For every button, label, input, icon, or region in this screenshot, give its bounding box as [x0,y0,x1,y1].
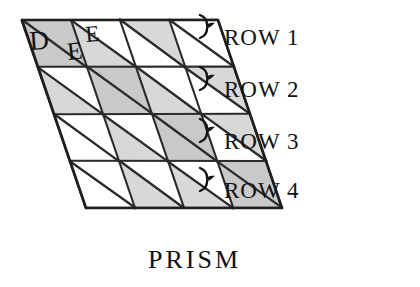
row-label-1: ROW 1 [224,25,300,50]
prism-diagram: DEE ROW 1ROW 2ROW 3ROW 4 PRISM [0,0,420,287]
figure-caption: PRISM [148,245,241,274]
figure-canvas: DEE ROW 1ROW 2ROW 3ROW 4 PRISM [0,0,420,287]
label-e-upper: E [84,21,101,47]
label-e-lower: E [66,36,85,65]
row-label-4: ROW 4 [224,178,300,203]
row-label-3: ROW 3 [224,129,300,154]
label-d: D [28,25,51,56]
row-label-2: ROW 2 [224,77,300,102]
row-brace-1 [200,15,212,38]
row-braces [200,15,212,191]
